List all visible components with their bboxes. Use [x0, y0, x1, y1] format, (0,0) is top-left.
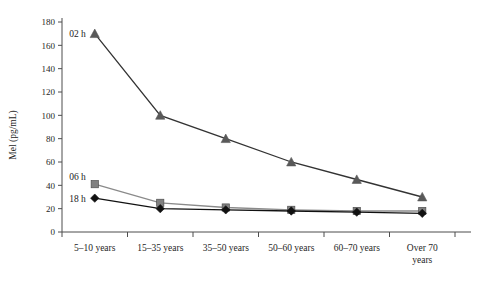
y-axis-title: Mel (pg/mL) [8, 110, 19, 159]
y-axis-tick-label: 80 [46, 134, 56, 144]
y-axis-tick-label: 20 [46, 204, 56, 214]
y-axis-tick-label: 160 [42, 41, 56, 51]
data-point-square [91, 181, 98, 188]
y-axis-tick-label: 0 [51, 227, 56, 237]
x-axis-tick-label: 15–35 years [137, 243, 183, 253]
x-axis-tick-label: 60–70 years [334, 243, 380, 253]
y-axis-tick-label: 140 [42, 64, 56, 74]
y-axis-tick-label: 40 [46, 181, 56, 191]
x-axis-tick-label: 5–10 years [74, 243, 116, 253]
x-axis-tick-label: 50–60 years [268, 243, 314, 253]
chart-canvas: 020406080100120140160180 5–10 years15–35… [0, 0, 478, 284]
series-label-02-h: 02 h [69, 29, 86, 39]
x-axis-tick-label: 35–50 years [203, 243, 249, 253]
series-label-18-h: 18 h [69, 194, 86, 204]
x-axis-tick-label: Over 70 [407, 243, 438, 253]
melatonin-age-line-chart: 020406080100120140160180 5–10 years15–35… [0, 0, 478, 284]
series-label-06-h: 06 h [69, 172, 86, 182]
chart-background [0, 0, 478, 284]
y-axis-tick-label: 100 [42, 111, 56, 121]
y-axis-tick-label: 60 [46, 157, 56, 167]
y-axis-tick-label: 120 [42, 87, 56, 97]
x-axis-tick-label: years [412, 255, 432, 265]
y-axis-tick-label: 180 [42, 17, 56, 27]
